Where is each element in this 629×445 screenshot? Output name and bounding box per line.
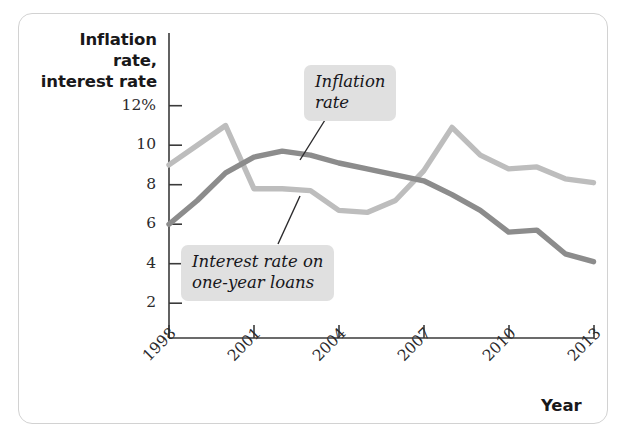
interest-callout-leader-line [278,196,300,244]
x-axis-ticks [169,325,594,338]
y-tick-label-6: 6 [104,214,156,232]
interest-rate-callout: Interest rate on one-year loans [181,245,334,301]
y-axis-title: Inflation rate, interest rate [31,29,157,92]
y-tick-label-8: 8 [104,175,156,193]
y-tick-label-4: 4 [104,254,156,272]
x-axis-title: Year [541,395,582,416]
y-tick-label-12: 12% [104,96,156,114]
y-tick-label-10: 10 [104,135,156,153]
inflation-rate-callout: Inflation rate [304,65,396,121]
chart-figure: Inflation rate, interest rate Year 12% 1… [0,0,629,445]
y-tick-label-2: 2 [104,293,156,311]
